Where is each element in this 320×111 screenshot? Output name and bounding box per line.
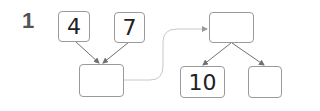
sum-answer-box[interactable] xyxy=(79,64,124,97)
number-box-4: 4 xyxy=(58,11,90,42)
arrow-7-to-sum xyxy=(103,42,129,63)
arrow-split-to-left xyxy=(203,43,231,65)
arrow-split-to-right xyxy=(232,43,264,65)
number-box-10: 10 xyxy=(180,66,225,98)
arrow-4-to-sum xyxy=(75,41,99,63)
split-answer-box[interactable] xyxy=(248,66,282,98)
number-box-7: 7 xyxy=(114,12,145,43)
split-source-box[interactable] xyxy=(209,12,254,43)
